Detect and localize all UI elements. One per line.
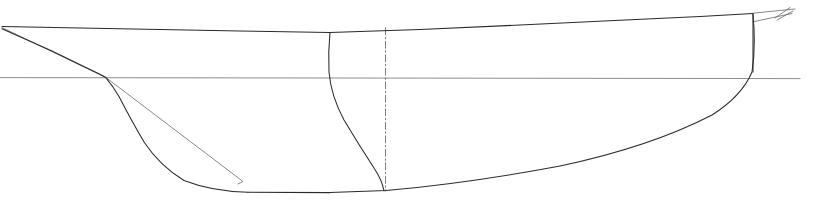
drawing-background — [0, 0, 835, 203]
hull-profile-svg — [0, 0, 835, 203]
hull-lines-drawing — [0, 0, 835, 203]
